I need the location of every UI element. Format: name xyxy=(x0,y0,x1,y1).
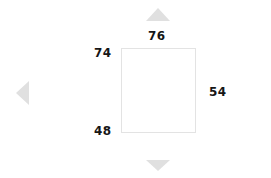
dimension-label-top-left: 74 xyxy=(94,47,112,59)
dimension-label-top: 76 xyxy=(148,30,166,42)
triangle-down-icon[interactable] xyxy=(146,160,170,171)
triangle-up-icon[interactable] xyxy=(146,8,170,21)
diagram-canvas: 76 74 48 54 xyxy=(0,0,271,178)
measurement-rectangle[interactable] xyxy=(121,48,196,133)
dimension-label-bottom-left: 48 xyxy=(94,125,112,137)
dimension-label-right: 54 xyxy=(209,86,227,98)
triangle-left-icon[interactable] xyxy=(16,81,29,105)
